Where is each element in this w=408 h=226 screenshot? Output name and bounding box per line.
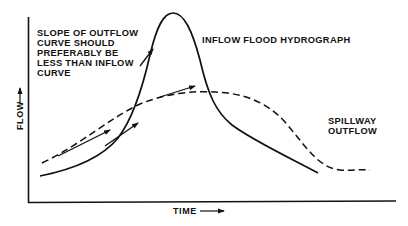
slope-note-line-4: LESS THAN INFLOW [37,58,134,68]
inflow-tangent-arrow-lower [105,123,138,146]
slope-note-line-3: PREFERABLY BE [37,48,118,58]
slope-note-line-1: SLOPE OF OUTFLOW [37,28,138,38]
inflow-tangent-arrow-upper [140,49,153,66]
y-axis-label: FLOW [15,101,25,130]
inflow-curve-label: INFLOW FLOOD HYDROGRAPH [202,35,350,45]
outflow-label-line-1: SPILLWAY [328,116,377,126]
hydrograph-diagram: SLOPE OF OUTFLOW CURVE SHOULD PREFERABLY… [0,0,408,226]
slope-note-line-5: CURVE [37,68,71,78]
x-axis-label: TIME [173,206,197,216]
outflow-label-line-2: OUTFLOW [328,126,377,136]
slope-note-line-2: CURVE SHOULD [37,38,115,48]
x-axis [28,201,396,203]
y-axis-label-group: FLOW [15,101,25,130]
